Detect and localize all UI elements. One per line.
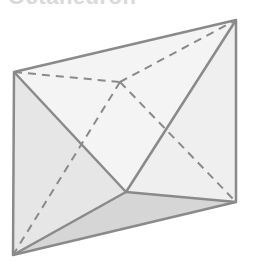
octahedron-diagram xyxy=(0,0,260,262)
